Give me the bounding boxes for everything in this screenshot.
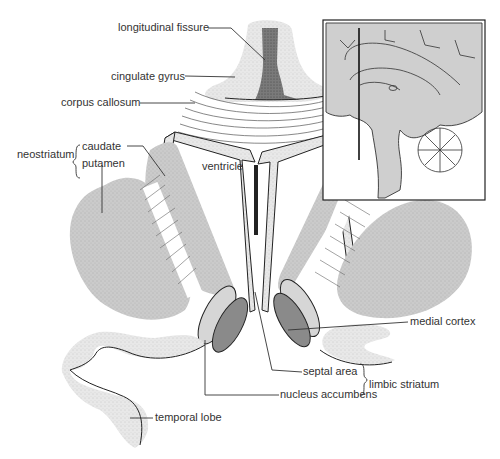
label-nucleus-accumbens: nucleus accumbens [280, 388, 378, 400]
label-ventricle: ventricle [202, 160, 243, 172]
label-cingulate-gyrus: cingulate gyrus [111, 70, 185, 82]
label-temporal-lobe: temporal lobe [155, 411, 222, 423]
label-medial-cortex: medial cortex [410, 315, 476, 327]
temporal-lobe-region [62, 332, 205, 448]
label-corpus-callosum: corpus callosum [61, 96, 140, 108]
label-septal-area: septal area [303, 365, 358, 377]
forebrain-diagram: longitudinal fissure cingulate gyrus cor… [0, 0, 500, 459]
label-caudate: caudate [82, 140, 121, 152]
sagittal-inset [323, 20, 485, 200]
label-longitudinal-fissure: longitudinal fissure [118, 21, 209, 33]
label-neostriatum: neostriatum [17, 148, 74, 160]
label-limbic-striatum: limbic striatum [369, 378, 439, 390]
label-putamen: putamen [82, 157, 125, 169]
right-medial-cortex-region [320, 324, 395, 365]
